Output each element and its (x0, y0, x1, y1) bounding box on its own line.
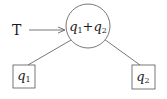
tree-diagram: T q1+q2 q1 q2 (0, 0, 167, 99)
edge-root-left (28, 40, 71, 65)
input-label: T (12, 22, 22, 38)
root-node-label: q1+q2 (69, 19, 107, 35)
edge-root-right (104, 39, 140, 65)
